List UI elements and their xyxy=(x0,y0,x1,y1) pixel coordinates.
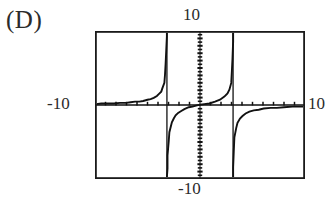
plot-area xyxy=(95,31,305,179)
axis-label-top: 10 xyxy=(183,5,200,24)
figure-choice-d: (D) 10 -10 -10 10 xyxy=(0,0,329,203)
choice-label: (D) xyxy=(6,6,42,34)
axis-label-left: -10 xyxy=(47,94,70,113)
axis-label-right: 10 xyxy=(308,94,325,113)
graph-canvas xyxy=(95,31,305,179)
axis-label-bottom: -10 xyxy=(178,179,201,198)
